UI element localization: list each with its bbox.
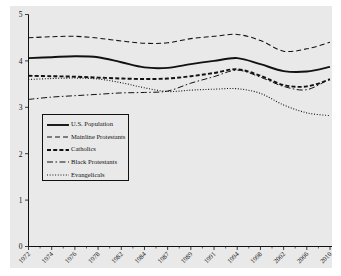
x-tick-label: 1974 [40, 250, 55, 265]
x-tick-label: 1987 [156, 250, 171, 265]
legend-label: Catholics [71, 146, 96, 153]
series-lines [29, 34, 331, 115]
legend-item-mainline-protestants[interactable]: Mainline Protestants [47, 131, 125, 144]
legend-label: U.S. Population [71, 121, 113, 128]
x-axis: 1972197419761978198219841987198919911994… [17, 247, 333, 265]
series-line-black-protestants [29, 70, 331, 99]
x-tick-label: 1976 [63, 250, 78, 265]
y-tick-label: 5 [19, 10, 23, 19]
x-tick-label: 2010 [318, 250, 333, 265]
legend-items: U.S. PopulationMainline ProtestantsCatho… [43, 115, 130, 182]
x-tick-label: 2006 [295, 250, 310, 265]
y-tick-label: 0 [19, 242, 23, 251]
x-tick-label: 1989 [179, 250, 194, 265]
legend-label: Black Protestants [71, 159, 117, 166]
y-tick-label: 2 [19, 150, 23, 159]
x-tick-label: 1982 [110, 250, 124, 264]
x-tick-label: 1984 [133, 250, 148, 265]
x-tick-label: 1994 [226, 250, 241, 265]
x-tick-label: 1998 [249, 250, 264, 265]
y-axis: 012345 [19, 10, 29, 251]
legend-label: Evangelicals [71, 172, 105, 179]
legend-swatch-solid [47, 120, 69, 130]
x-tick-label: 1972 [17, 250, 31, 264]
y-tick-label: 1 [19, 196, 23, 205]
x-tick-label: 1978 [87, 250, 102, 265]
legend-label: Mainline Protestants [71, 134, 125, 141]
y-tick-label: 3 [19, 103, 23, 112]
legend-swatch-dashed [47, 132, 69, 142]
chart-legend: U.S. PopulationMainline ProtestantsCatho… [42, 114, 129, 181]
x-tick-label: 1991 [202, 250, 216, 264]
series-line-u-s-population [29, 56, 331, 72]
chart-figure: 012345 197219741976197819821984198719891… [0, 0, 341, 276]
legend-swatch-dotted [47, 170, 69, 180]
x-tick-label: 2002 [272, 250, 286, 264]
legend-swatch-thick-dashed [47, 145, 69, 155]
legend-item-evangelicals[interactable]: Evangelicals [47, 168, 105, 181]
legend-item-catholics[interactable]: Catholics [47, 143, 96, 156]
legend-item-black-protestants[interactable]: Black Protestants [47, 156, 117, 169]
legend-item-u-s-population[interactable]: U.S. Population [47, 118, 113, 131]
y-tick-label: 4 [19, 57, 23, 66]
legend-swatch-dash-dot [47, 157, 69, 167]
series-line-evangelicals [29, 78, 331, 116]
series-line-mainline-protestants [29, 34, 331, 51]
